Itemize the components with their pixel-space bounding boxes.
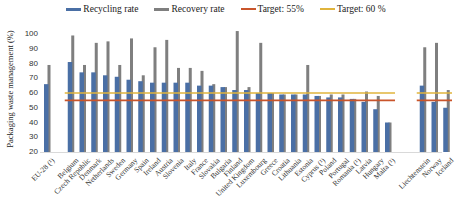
recycling-bar — [256, 93, 261, 152]
recycling-bar — [197, 86, 202, 152]
recycling-bar — [315, 96, 320, 152]
recycling-bar — [338, 97, 343, 152]
recycling-bar — [103, 75, 108, 152]
recycling-bar — [68, 62, 73, 152]
recycling-bar — [44, 84, 49, 152]
recycling-bar — [350, 99, 355, 152]
recycling-bar — [385, 123, 390, 153]
recycling-bar — [221, 87, 226, 152]
y-tick-label: 50 — [18, 103, 38, 112]
recycling-bar — [91, 72, 96, 152]
recycling-bar — [115, 77, 120, 152]
recycling-bar — [232, 90, 237, 152]
y-tick-label: 70 — [18, 73, 38, 82]
y-tick-label: 20 — [18, 147, 38, 156]
y-tick-label: 90 — [18, 44, 38, 53]
y-tick-label: 60 — [18, 88, 38, 97]
recycling-bar — [420, 86, 425, 152]
y-tick-label: 80 — [18, 59, 38, 68]
y-tick-label: 30 — [18, 132, 38, 141]
recycling-bar — [268, 93, 273, 152]
y-tick-label: 40 — [18, 118, 38, 127]
recycling-bar — [443, 108, 448, 152]
recycling-bar — [291, 94, 296, 152]
recycling-bar — [326, 97, 331, 152]
recycling-bar — [279, 94, 284, 152]
recycling-bar — [373, 109, 378, 152]
recycling-bar — [432, 102, 437, 152]
recycling-bar — [303, 94, 308, 152]
y-tick-label: 100 — [18, 29, 38, 38]
recycling-bar — [127, 80, 132, 152]
recycling-bar — [80, 72, 85, 152]
recycling-bar — [209, 86, 214, 152]
recycling-bar — [362, 102, 367, 152]
recycling-bar — [138, 81, 143, 152]
recycling-bar — [244, 90, 249, 152]
